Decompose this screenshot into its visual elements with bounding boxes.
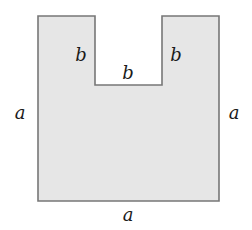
label-notch-left: b: [75, 44, 87, 65]
label-bottom-side: a: [123, 204, 134, 225]
label-notch-right: b: [170, 44, 182, 65]
label-notch-bottom: b: [122, 62, 134, 83]
label-left-side: a: [15, 102, 26, 123]
label-right-side: a: [229, 102, 240, 123]
u-shape-diagram: a a a b b b: [0, 0, 252, 230]
u-shape-polygon: [38, 16, 219, 201]
